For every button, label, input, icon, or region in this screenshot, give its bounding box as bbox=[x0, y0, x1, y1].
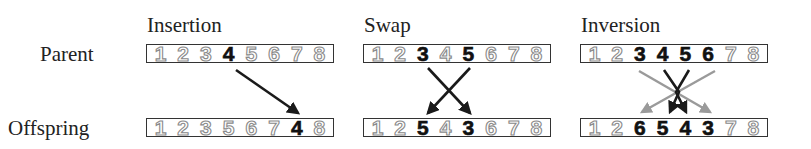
insertion-arrow-icon bbox=[236, 70, 298, 113]
inversion-arrows-icon bbox=[639, 70, 715, 112]
mutation-arrows bbox=[0, 0, 811, 149]
swap-arrows-icon bbox=[428, 68, 470, 113]
